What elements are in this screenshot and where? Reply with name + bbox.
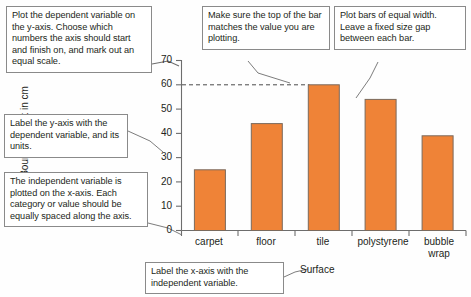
x-tick-label-tile: tile xyxy=(294,236,352,248)
x-tick-label-polystyrene: polystyrene xyxy=(348,236,418,248)
x-axis-title: Surface xyxy=(300,264,334,275)
bar-chart-annotated-diagram: 0 10 20 30 40 50 60 70 Bounce height in … xyxy=(0,0,471,297)
callout-x-axis-spacing-text: The independent variable is plotted on t… xyxy=(10,176,132,221)
y-tick-label-0: 0 xyxy=(148,224,172,235)
bar-tile xyxy=(308,85,339,231)
leader-line-bar-width xyxy=(356,62,378,98)
bar-polystyrene xyxy=(365,99,396,230)
callout-bar-top-value: Make sure the top of the bar matches the… xyxy=(202,6,330,50)
y-tick-label-30: 30 xyxy=(148,151,172,162)
callout-y-axis-scale: Plot the dependent variable on the y-axi… xyxy=(6,6,152,73)
leader-line-bar-top xyxy=(248,61,290,83)
bar-bubble-wrap xyxy=(422,136,453,231)
callout-y-axis-label-text: Label the y-axis with the dependent vari… xyxy=(10,118,119,151)
y-tick-label-40: 40 xyxy=(148,127,172,138)
y-tick-label-50: 50 xyxy=(148,103,172,114)
x-tick-label-bubble-wrap: bubble wrap xyxy=(414,236,464,260)
x-tick-label-floor: floor xyxy=(237,236,295,248)
y-tick-label-60: 60 xyxy=(148,78,172,89)
callout-x-axis-label: Label the x-axis with the independent va… xyxy=(145,262,284,294)
y-axis-ticks xyxy=(176,61,182,231)
callout-y-axis-label: Label the y-axis with the dependent vari… xyxy=(4,114,128,158)
callout-x-axis-spacing: The independent variable is plotted on t… xyxy=(4,172,148,227)
callout-y-axis-scale-text: Plot the dependent variable on the y-axi… xyxy=(12,10,135,66)
x-tick-label-carpet: carpet xyxy=(180,236,238,248)
callout-bar-width-gap-text: Plot bars of equal width. Leave a fixed … xyxy=(340,10,437,43)
callout-bar-top-value-text: Make sure the top of the bar matches the… xyxy=(208,10,322,43)
y-tick-label-20: 20 xyxy=(148,176,172,187)
bar-floor xyxy=(251,124,282,231)
bar-carpet xyxy=(194,170,225,231)
callout-x-axis-label-text: Label the x-axis with the independent va… xyxy=(151,266,248,288)
callout-bar-width-gap: Plot bars of equal width. Leave a fixed … xyxy=(334,6,466,50)
y-tick-label-10: 10 xyxy=(148,200,172,211)
